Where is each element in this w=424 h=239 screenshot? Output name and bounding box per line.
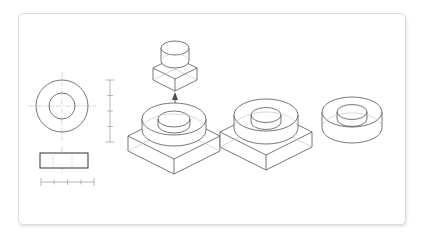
horizontal-dimension-scale [41,178,94,186]
inner-circle-bore [49,93,75,119]
vertical-dimension-scale [106,80,115,142]
cad-drawing-canvas [0,0,424,239]
orthographic-top-view [28,72,96,140]
iso-washer [322,97,382,143]
orthographic-front-view [40,147,88,175]
iso-base-plate-1 [128,103,220,174]
plate1-bore-top-ellipse [158,111,190,127]
washer-bore-top-ellipse [337,105,367,120]
front-view-rect [40,153,88,168]
boss-cylinder-top-ellipse [161,41,189,55]
iso-base-plate-2 [220,99,312,170]
assembly-arrow-head [172,92,178,100]
iso-boss-component [153,41,197,91]
drawing-page [0,0,424,239]
outer-circle [36,80,88,132]
plate2-bore-top-ellipse [251,108,281,123]
